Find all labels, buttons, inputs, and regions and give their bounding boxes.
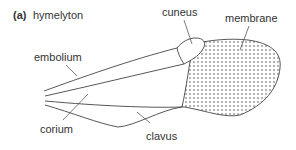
label-corium: corium bbox=[40, 123, 73, 135]
panel-letter: (a) bbox=[13, 9, 26, 21]
label-cuneus: cuneus bbox=[162, 6, 197, 18]
label-embolium: embolium bbox=[34, 51, 82, 63]
figure-title: hymelyton bbox=[33, 9, 83, 21]
label-membrane: membrane bbox=[225, 12, 278, 24]
label-clavus: clavus bbox=[146, 130, 177, 142]
hemelytron-diagram: (a) hymelyton cuneus membrane embolium c… bbox=[0, 0, 296, 150]
